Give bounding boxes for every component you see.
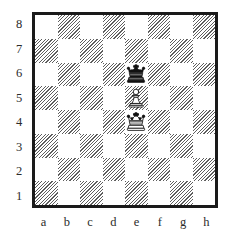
square-a4[interactable] [35,110,58,134]
rank-label-6: 6 [8,61,30,86]
black-king-icon[interactable] [126,64,147,85]
square-a6[interactable] [35,63,58,87]
file-label-b: b [55,210,78,234]
file-label-d: d [102,210,125,234]
square-b8[interactable] [58,15,81,39]
square-b1[interactable] [58,181,81,205]
rank-label-7: 7 [8,37,30,62]
file-label-h: h [195,210,218,234]
square-e1[interactable] [125,181,148,205]
square-c1[interactable] [80,181,103,205]
square-c7[interactable] [80,39,103,63]
square-a7[interactable] [35,39,58,63]
square-g4[interactable] [170,110,193,134]
square-b3[interactable] [58,134,81,158]
square-d4[interactable] [103,110,126,134]
square-d8[interactable] [103,15,126,39]
square-h5[interactable] [193,86,216,110]
square-f8[interactable] [148,15,171,39]
square-h8[interactable] [193,15,216,39]
chess-diagram: 8 7 6 5 4 3 2 1 [0,0,241,245]
square-c6[interactable] [80,63,103,87]
square-e2[interactable] [125,158,148,182]
square-f1[interactable] [148,181,171,205]
square-b4[interactable] [58,110,81,134]
chessboard-border [32,12,218,208]
square-f3[interactable] [148,134,171,158]
square-h7[interactable] [193,39,216,63]
rank-label-1: 1 [8,184,30,209]
square-e8[interactable] [125,15,148,39]
square-f4[interactable] [148,110,171,134]
square-f2[interactable] [148,158,171,182]
rank-label-column: 8 7 6 5 4 3 2 1 [8,12,30,208]
file-label-g: g [172,210,195,234]
square-c2[interactable] [80,158,103,182]
square-g3[interactable] [170,134,193,158]
square-h3[interactable] [193,134,216,158]
rank-label-3: 3 [8,135,30,160]
square-a3[interactable] [35,134,58,158]
square-b6[interactable] [58,63,81,87]
rank-label-4: 4 [8,110,30,135]
white-king-icon[interactable] [126,111,147,132]
square-a8[interactable] [35,15,58,39]
square-f5[interactable] [148,86,171,110]
square-e7[interactable] [125,39,148,63]
square-d3[interactable] [103,134,126,158]
square-b5[interactable] [58,86,81,110]
square-d5[interactable] [103,86,126,110]
chessboard-grid [35,15,215,205]
square-d2[interactable] [103,158,126,182]
rank-label-2: 2 [8,159,30,184]
file-label-f: f [148,210,171,234]
square-g7[interactable] [170,39,193,63]
file-label-e: e [125,210,148,234]
square-b7[interactable] [58,39,81,63]
file-label-a: a [32,210,55,234]
square-d6[interactable] [103,63,126,87]
square-c3[interactable] [80,134,103,158]
rank-label-5: 5 [8,86,30,111]
square-a2[interactable] [35,158,58,182]
square-h6[interactable] [193,63,216,87]
square-d7[interactable] [103,39,126,63]
square-g8[interactable] [170,15,193,39]
square-g1[interactable] [170,181,193,205]
square-c5[interactable] [80,86,103,110]
square-e6[interactable] [125,63,148,87]
square-f6[interactable] [148,63,171,87]
white-pawn-icon[interactable] [126,88,147,109]
square-c4[interactable] [80,110,103,134]
square-e5[interactable] [125,86,148,110]
square-g5[interactable] [170,86,193,110]
square-d1[interactable] [103,181,126,205]
file-label-c: c [79,210,102,234]
square-g2[interactable] [170,158,193,182]
square-e3[interactable] [125,134,148,158]
square-c8[interactable] [80,15,103,39]
square-a1[interactable] [35,181,58,205]
square-f7[interactable] [148,39,171,63]
square-h4[interactable] [193,110,216,134]
square-b2[interactable] [58,158,81,182]
square-e4[interactable] [125,110,148,134]
square-a5[interactable] [35,86,58,110]
square-h1[interactable] [193,181,216,205]
square-g6[interactable] [170,63,193,87]
rank-label-8: 8 [8,12,30,37]
file-label-row: a b c d e f g h [32,210,218,234]
square-h2[interactable] [193,158,216,182]
